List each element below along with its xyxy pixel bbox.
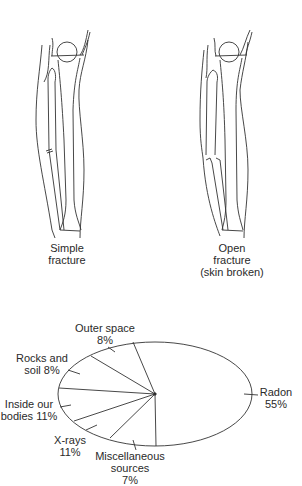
label-line: soil 8% [14, 364, 70, 376]
label-inside-bodies: Inside our bodies 11% [0, 398, 58, 422]
simple-fracture-caption: Simple fracture [42, 242, 92, 266]
label-line: 11% [50, 446, 90, 458]
caption-line: Open [196, 242, 268, 254]
open-fracture-leg [200, 30, 252, 238]
open-fracture-caption: Open fracture (skin broken) [196, 242, 268, 278]
label-line: Miscellaneous [92, 450, 168, 462]
label-line: X-rays [50, 434, 90, 446]
caption-line: Simple [42, 242, 92, 254]
caption-line: fracture [196, 254, 268, 266]
label-line: bodies 11% [0, 410, 58, 422]
label-line: sources [92, 462, 168, 474]
label-line: 55% [258, 398, 294, 410]
label-rocks-soil: Rocks and soil 8% [14, 352, 70, 376]
label-line: Inside our [0, 398, 58, 410]
label-line: Rocks and [14, 352, 70, 364]
caption-line: (skin broken) [196, 266, 268, 278]
label-line: Outer space [72, 322, 138, 334]
label-misc-sources: Miscellaneous sources 7% [92, 450, 168, 486]
label-xrays: X-rays 11% [50, 434, 90, 458]
label-outer-space: Outer space 8% [72, 322, 138, 346]
simple-fracture-leg [36, 30, 90, 238]
label-radon: Radon 55% [258, 386, 294, 410]
caption-line: fracture [42, 254, 92, 266]
label-line: Radon [258, 386, 294, 398]
label-line: 7% [92, 474, 168, 486]
label-line: 8% [72, 334, 138, 346]
